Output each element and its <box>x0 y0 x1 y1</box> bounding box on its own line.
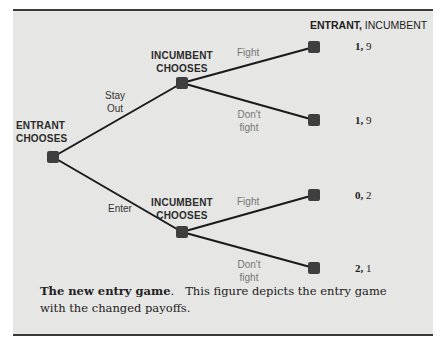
stay-out-label: Stay Out <box>100 89 130 115</box>
lower-incumbent-line2: CHOOSES <box>150 209 214 222</box>
header-entrant: ENTRANT, <box>310 19 362 31</box>
terminal-node-3 <box>308 189 320 201</box>
stay-out-line1: Stay <box>100 89 130 102</box>
payoff-3-incumbent: 2 <box>366 189 372 201</box>
payoff-1-entrant: 1, <box>355 40 363 52</box>
entrant-chooses-label: ENTRANT CHOOSES <box>16 119 67 145</box>
header-incumbent: INCUMBENT <box>365 19 427 31</box>
payoff-4-entrant: 2, <box>355 262 363 274</box>
upper-dont-fight-label: Don't fight <box>232 108 266 134</box>
upper-dont-line2: fight <box>232 121 266 134</box>
payoff-2-entrant: 1, <box>355 114 363 126</box>
payoff-2: 1, 9 <box>355 114 372 127</box>
enter-label: Enter <box>108 202 132 215</box>
payoff-1: 1, 9 <box>355 40 372 53</box>
caption-title: The new entry game <box>40 284 171 298</box>
entrant-label-line1: ENTRANT <box>16 119 67 132</box>
lower-fight-label: Fight <box>237 195 259 208</box>
upper-dont-line1: Don't <box>232 108 266 121</box>
lower-dont-line1: Don't <box>232 258 266 271</box>
payoff-1-incumbent: 9 <box>366 40 372 52</box>
node-incumbent-upper <box>176 77 188 89</box>
upper-fight-label: Fight <box>237 46 259 59</box>
terminal-node-1 <box>308 41 320 53</box>
payoff-3: 0, 2 <box>355 189 372 202</box>
payoff-4: 2, 1 <box>355 262 372 275</box>
lower-incumbent-label: INCUMBENT CHOOSES <box>150 196 214 222</box>
upper-incumbent-line2: CHOOSES <box>150 62 214 75</box>
payoff-4-incumbent: 1 <box>366 262 372 274</box>
payoff-header: ENTRANT, INCUMBENT <box>310 19 427 32</box>
terminal-node-4 <box>308 262 320 274</box>
terminal-node-2 <box>308 114 320 126</box>
payoff-2-incumbent: 9 <box>366 114 372 126</box>
lower-dont-fight-label: Don't fight <box>232 258 266 284</box>
upper-incumbent-label: INCUMBENT CHOOSES <box>150 49 214 75</box>
lower-incumbent-line1: INCUMBENT <box>150 196 214 209</box>
figure-caption: The new entry game. This figure depicts … <box>40 283 412 317</box>
entrant-label-line2: CHOOSES <box>16 132 67 145</box>
payoff-3-entrant: 0, <box>355 189 363 201</box>
node-incumbent-lower <box>176 226 188 238</box>
caption-title-period: . <box>171 284 175 298</box>
stay-out-line2: Out <box>100 102 130 115</box>
upper-incumbent-line1: INCUMBENT <box>150 49 214 62</box>
node-entrant-root <box>47 151 59 163</box>
